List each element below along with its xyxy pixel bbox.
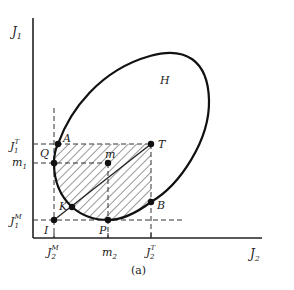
label-I: I	[43, 224, 49, 237]
label-A: A	[62, 132, 71, 145]
pareto-diagram: J1 J2 JT1 m1 JM1 JM2 m2 JT2 H A Q m T K …	[0, 0, 294, 290]
label-m: m	[105, 148, 115, 161]
label-B: B	[156, 199, 165, 212]
point-B	[148, 199, 154, 205]
label-K: K	[58, 200, 68, 213]
point-P	[105, 217, 111, 223]
y-tick-J1T: JT1	[8, 138, 20, 155]
point-Q	[51, 160, 57, 166]
point-T	[148, 141, 154, 147]
label-H: H	[159, 74, 170, 87]
x-tick-J2T: JT2	[144, 244, 156, 261]
x-axis-label: J2	[247, 247, 260, 263]
point-K	[69, 204, 75, 210]
label-T: T	[158, 138, 167, 151]
x-tick-m2: m2	[102, 246, 117, 261]
y-tick-J1M: JM1	[8, 213, 22, 230]
y-tick-m1: m1	[12, 156, 27, 171]
point-I	[51, 217, 57, 223]
x-tick-J2M: JM2	[45, 244, 59, 261]
label-Q: Q	[40, 147, 49, 160]
label-P: P	[98, 224, 107, 237]
figure-caption: (a)	[131, 264, 146, 277]
point-A	[55, 141, 61, 147]
y-axis-label: J1	[9, 25, 22, 41]
